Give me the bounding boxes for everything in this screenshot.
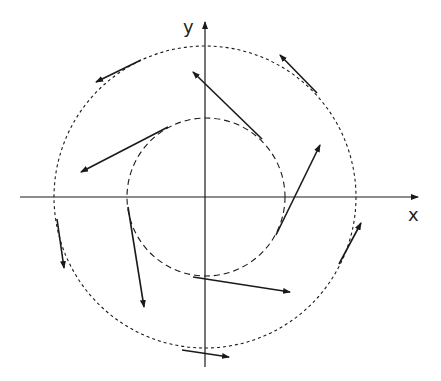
y-axis-label: y (183, 18, 194, 36)
axes (20, 22, 418, 367)
inner-arrow-left-lower (128, 207, 144, 307)
diagram-canvas (0, 0, 441, 381)
outer-arrow-top-right (280, 55, 317, 93)
outer-arrow-right (339, 223, 361, 264)
x-axis-label: x (408, 206, 419, 224)
inner-arrow-right (276, 145, 320, 235)
velocity-arrows (57, 55, 361, 357)
outer-arrow-top-left (96, 60, 141, 82)
outer-arrow-left (57, 219, 64, 268)
inner-arrow-left-upper (81, 127, 168, 172)
inner-arrow-bottom (193, 277, 290, 292)
vector-field-diagram: y x (0, 0, 441, 381)
inner-arrow-top (193, 72, 262, 139)
